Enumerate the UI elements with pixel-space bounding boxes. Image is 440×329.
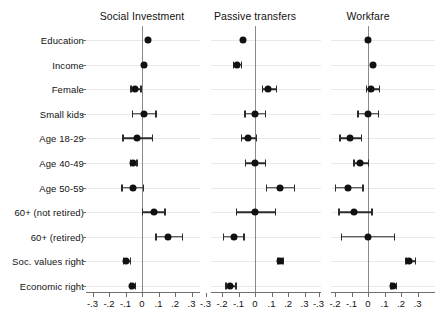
point-estimate-marker: [252, 110, 259, 117]
point-estimate-marker: [134, 135, 141, 142]
confidence-interval-cap: [136, 160, 137, 167]
x-axis-tick: [305, 293, 306, 297]
confidence-interval-cap: [236, 209, 237, 216]
confidence-interval-cap: [164, 209, 165, 216]
point-estimate-marker: [132, 86, 139, 93]
confidence-interval-cap: [396, 283, 397, 290]
x-axis-tick-label: .2: [171, 298, 179, 309]
x-axis-tick: [159, 293, 160, 297]
x-axis-tick-label: -.3: [313, 298, 324, 309]
point-estimate-marker: [389, 283, 396, 290]
confidence-interval-cap: [265, 110, 266, 117]
category-label: 60+ (not retired): [14, 207, 84, 218]
confidence-interval-cap: [244, 110, 245, 117]
confidence-interval-cap: [245, 160, 246, 167]
point-estimate-marker: [265, 86, 272, 93]
point-estimate-marker: [252, 160, 259, 167]
confidence-interval-cap: [243, 233, 244, 240]
point-estimate-marker: [406, 258, 413, 265]
confidence-interval-cap: [394, 233, 395, 240]
confidence-interval-cap: [353, 160, 354, 167]
confidence-interval-cap: [122, 135, 123, 142]
x-axis-tick-label: -.3: [200, 298, 211, 309]
confidence-interval-cap: [362, 184, 363, 191]
confidence-interval-cap: [341, 233, 342, 240]
point-estimate-marker: [368, 86, 375, 93]
confidence-interval-cap: [379, 86, 380, 93]
point-estimate-marker: [227, 283, 234, 290]
x-axis-tick: [272, 293, 273, 297]
confidence-interval-cap: [241, 61, 242, 68]
category-label: Female: [52, 84, 84, 95]
confidence-interval-cap: [241, 135, 242, 142]
confidence-interval-cap: [378, 110, 379, 117]
point-estimate-marker: [240, 37, 247, 44]
confidence-interval-cap: [265, 160, 266, 167]
x-axis-tick-label: .1: [381, 298, 389, 309]
confidence-interval-cap: [294, 184, 295, 191]
x-axis-line: [86, 292, 200, 293]
category-label: Income: [52, 59, 84, 70]
x-axis-tick-label: .2: [397, 298, 405, 309]
gridline: [331, 286, 435, 287]
confidence-interval-cap: [140, 86, 141, 93]
x-axis-tick-label: -.2: [103, 298, 114, 309]
point-estimate-marker: [129, 184, 136, 191]
gridline: [331, 114, 435, 115]
x-axis-tick: [352, 293, 353, 297]
confidence-interval-cap: [266, 184, 267, 191]
x-axis-tick-label: -.3: [87, 298, 98, 309]
point-estimate-marker: [369, 61, 376, 68]
gridline: [331, 163, 435, 164]
x-axis-tick: [335, 293, 336, 297]
confidence-interval-cap: [366, 86, 367, 93]
x-axis-line: [331, 292, 435, 293]
confidence-interval-cap: [415, 258, 416, 265]
x-axis-tick: [109, 293, 110, 297]
point-estimate-marker: [123, 258, 130, 265]
category-label: Age 40-49: [39, 158, 84, 169]
category-label: Age 18-29: [39, 133, 84, 144]
point-estimate-marker: [346, 135, 353, 142]
x-axis-tick: [385, 293, 386, 297]
category-label: Education: [41, 35, 84, 46]
point-estimate-marker: [245, 135, 252, 142]
point-estimate-marker: [140, 61, 147, 68]
confidence-interval-cap: [361, 135, 362, 142]
confidence-interval-cap: [276, 86, 277, 93]
confidence-interval-cap: [256, 135, 257, 142]
point-estimate-marker: [365, 110, 372, 117]
x-axis-tick-label: 0: [365, 298, 370, 309]
point-estimate-marker: [144, 37, 151, 44]
x-axis-tick-label: 0: [139, 298, 144, 309]
confidence-interval-cap: [338, 209, 339, 216]
confidence-interval-cap: [155, 233, 156, 240]
x-axis-tick: [319, 293, 320, 297]
x-axis-tick-label: 0: [252, 298, 257, 309]
gridline: [211, 65, 321, 66]
x-axis-tick: [288, 293, 289, 297]
x-axis-tick: [401, 293, 402, 297]
x-axis-tick-label: -.1: [346, 298, 357, 309]
point-estimate-marker: [365, 233, 372, 240]
point-estimate-marker: [129, 283, 136, 290]
panel-title-2: Workfare: [288, 10, 440, 22]
gridline: [331, 65, 435, 66]
gridline: [211, 40, 321, 41]
coefficient-plot-figure: EducationIncomeFemaleSmall kidsAge 18-29…: [0, 0, 440, 329]
confidence-interval-cap: [142, 209, 143, 216]
point-estimate-marker: [276, 184, 283, 191]
gridline: [331, 261, 435, 262]
point-estimate-marker: [233, 61, 240, 68]
x-axis-tick-label: -.1: [233, 298, 244, 309]
confidence-interval-cap: [357, 110, 358, 117]
x-axis-tick: [255, 293, 256, 297]
confidence-interval-cap: [143, 184, 144, 191]
confidence-interval-cap: [121, 184, 122, 191]
x-axis-tick-label: -.1: [120, 298, 131, 309]
x-axis-tick-label: .1: [155, 298, 163, 309]
point-estimate-marker: [276, 258, 283, 265]
confidence-interval-cap: [152, 135, 153, 142]
confidence-interval-cap: [182, 233, 183, 240]
category-label: Age 50-59: [39, 182, 84, 193]
